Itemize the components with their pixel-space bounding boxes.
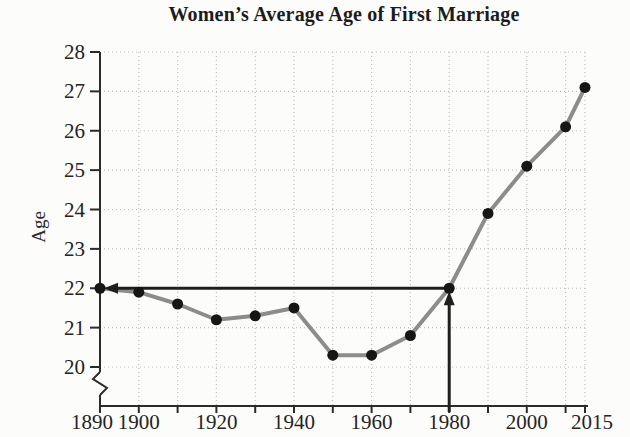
y-tick-label: 20	[64, 355, 85, 379]
x-tick-label: 1920	[195, 410, 237, 434]
x-tick-label: 1980	[428, 410, 470, 434]
x-tick-label: 2015	[571, 410, 613, 434]
y-tick-label: 27	[64, 79, 85, 103]
data-point	[289, 302, 300, 313]
x-tick-label: 1960	[351, 410, 393, 434]
data-point	[560, 121, 571, 132]
data-point	[405, 330, 416, 341]
data-point	[133, 287, 144, 298]
y-tick-label: 28	[64, 40, 85, 64]
data-point	[580, 82, 591, 93]
x-tick-label: 1940	[273, 410, 315, 434]
data-point	[250, 310, 261, 321]
data-point	[366, 350, 377, 361]
y-axis-break	[93, 372, 107, 395]
data-point	[327, 350, 338, 361]
x-tick-label: 1900	[118, 410, 160, 434]
y-tick-label: 26	[64, 119, 85, 143]
data-point	[483, 208, 494, 219]
chart-canvas: 2827262524232221201890190019201940196019…	[0, 0, 630, 437]
y-tick-label: 25	[64, 158, 85, 182]
y-tick-label: 22	[64, 276, 85, 300]
chart-figure: Women’s Average Age of First Marriage Ag…	[0, 0, 630, 437]
data-point	[172, 299, 183, 310]
data-point	[444, 283, 455, 294]
x-tick-label: 2000	[506, 410, 548, 434]
y-tick-label: 23	[64, 237, 85, 261]
y-tick-label: 21	[64, 316, 85, 340]
trace-arrowhead-left	[104, 283, 118, 294]
data-point	[521, 161, 532, 172]
data-point	[211, 314, 222, 325]
series-line	[100, 87, 585, 355]
x-tick-label: 1890	[71, 410, 113, 434]
y-tick-label: 24	[64, 198, 86, 222]
data-point	[95, 283, 106, 294]
